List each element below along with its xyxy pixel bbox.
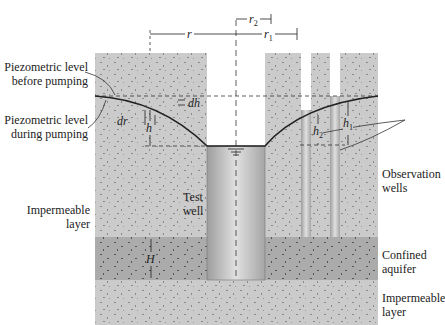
symbol-h1-sub: 1: [349, 123, 353, 132]
label-observation-wells: Observation wells: [382, 167, 441, 195]
label-line: Observation: [382, 167, 441, 181]
symbol-r: r: [185, 27, 194, 41]
label-line: well: [180, 204, 206, 218]
label-confined-aquifer: Confined aquifer: [382, 248, 427, 276]
symbol-h2-sub: 2: [319, 131, 323, 140]
aquifer-diagram: [0, 0, 445, 325]
symbol-dr: dr: [117, 114, 128, 128]
symbol-H: H: [146, 252, 155, 266]
symbol-h2: h2: [313, 124, 323, 143]
symbol-h1: h1: [343, 116, 353, 135]
label-line: wells: [382, 181, 441, 195]
label-line: Confined: [382, 248, 427, 262]
label-line: layer: [0, 217, 90, 231]
symbol-r1: r1: [262, 27, 275, 46]
label-line: during pumping: [0, 127, 88, 141]
label-line: Piezometric level: [0, 113, 88, 127]
label-impermeable-upper: Impermeable layer: [0, 203, 90, 231]
label-line: aquifer: [382, 262, 427, 276]
symbol-r2: r2: [247, 12, 260, 31]
label-line: Piezometric level: [0, 60, 88, 74]
observation-well-2: [301, 110, 311, 237]
symbol-r1-sub: 1: [269, 34, 273, 43]
lower-impermeable-layer: [95, 280, 378, 325]
label-line: Impermeable: [0, 203, 90, 217]
label-line: before pumping: [0, 74, 88, 88]
label-line: layer: [382, 305, 445, 319]
label-line: Impermeable: [382, 291, 445, 305]
label-piezo-during: Piezometric level during pumping: [0, 113, 88, 141]
label-impermeable-lower: Impermeable layer: [382, 291, 445, 319]
label-line: Test: [180, 190, 206, 204]
symbol-dh: dh: [188, 96, 200, 110]
symbol-h: h: [146, 121, 152, 135]
label-test-well: Test well: [180, 190, 206, 218]
label-piezo-before: Piezometric level before pumping: [0, 60, 88, 88]
observation-well-1: [330, 96, 340, 237]
symbol-r2-sub: 2: [254, 19, 258, 28]
